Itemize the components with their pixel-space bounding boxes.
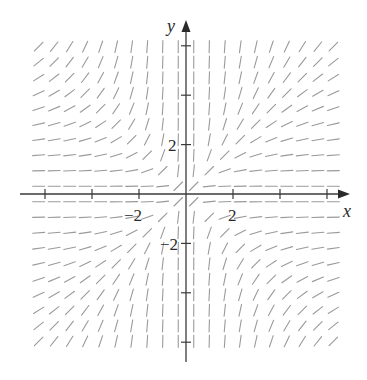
slope-segment bbox=[48, 247, 60, 249]
slope-segment bbox=[281, 154, 293, 156]
slope-segment bbox=[81, 89, 89, 97]
slope-segment bbox=[327, 123, 339, 126]
slope-segment bbox=[253, 88, 258, 99]
slope-segment bbox=[157, 201, 169, 202]
slope-segment bbox=[314, 322, 322, 330]
slope-segment bbox=[33, 123, 45, 126]
slope-segment bbox=[190, 182, 198, 190]
slope-segment bbox=[95, 246, 106, 251]
slope-segment bbox=[143, 229, 151, 237]
y-tick-label-2: 2 bbox=[168, 136, 177, 155]
slope-segment bbox=[97, 88, 104, 98]
slope-segment bbox=[115, 320, 118, 332]
slope-segment bbox=[64, 276, 75, 282]
slope-segment bbox=[131, 56, 133, 68]
slope-segment bbox=[99, 41, 103, 52]
slope-segment bbox=[95, 137, 106, 142]
slope-segment bbox=[236, 135, 244, 143]
slope-segment bbox=[158, 213, 166, 221]
slope-segment bbox=[113, 274, 120, 284]
slope-segment bbox=[146, 87, 148, 99]
slope-segment bbox=[239, 320, 241, 332]
slope-segment bbox=[129, 119, 135, 129]
slope-segment bbox=[221, 229, 229, 237]
slope-segment bbox=[178, 165, 179, 177]
direction-field-chart: x y −2 2 2 −2 bbox=[0, 0, 367, 380]
slope-segment bbox=[98, 57, 103, 68]
slope-segment bbox=[34, 58, 43, 65]
slope-segment bbox=[79, 232, 91, 234]
slope-segment bbox=[283, 306, 290, 316]
slope-segment bbox=[284, 41, 289, 52]
slope-segment bbox=[254, 320, 257, 332]
slope-segment bbox=[174, 198, 182, 206]
slope-segment bbox=[297, 276, 308, 282]
slope-segment bbox=[80, 261, 91, 266]
slope-segment bbox=[33, 232, 45, 233]
slope-segment bbox=[328, 277, 339, 281]
slope-segment bbox=[224, 320, 225, 332]
slope-segment bbox=[98, 72, 104, 83]
slope-segment bbox=[207, 227, 211, 238]
slope-segment bbox=[208, 242, 210, 254]
slope-segment bbox=[265, 154, 277, 156]
slope-segment bbox=[114, 72, 118, 83]
slope-segment bbox=[79, 247, 91, 250]
slope-segment bbox=[115, 56, 118, 68]
slope-segment bbox=[96, 121, 106, 128]
slope-segment bbox=[252, 120, 260, 128]
slope-segment bbox=[296, 138, 308, 141]
slope-segment bbox=[158, 166, 166, 174]
slope-segment bbox=[81, 291, 89, 299]
slope-segment bbox=[268, 305, 274, 316]
slope-segment bbox=[49, 106, 60, 111]
slope-segment bbox=[298, 73, 306, 81]
slope-segment bbox=[239, 87, 242, 99]
slope-segment bbox=[146, 289, 148, 301]
slope-segment bbox=[329, 42, 337, 50]
slope-segment bbox=[64, 232, 76, 233]
slope-segment bbox=[110, 170, 122, 171]
slope-segment bbox=[126, 153, 137, 158]
slope-segment bbox=[147, 41, 148, 53]
slope-segment bbox=[193, 165, 194, 177]
slope-segment bbox=[239, 335, 241, 347]
slope-segment bbox=[67, 336, 73, 346]
slope-segment bbox=[239, 41, 241, 53]
slope-segment bbox=[298, 306, 306, 314]
x-axis-label: x bbox=[342, 201, 351, 221]
slope-segment bbox=[296, 232, 308, 233]
slope-segment bbox=[129, 259, 135, 269]
slope-segment bbox=[222, 134, 227, 145]
slope-segment bbox=[82, 57, 88, 67]
slope-segment bbox=[222, 243, 227, 254]
slope-segment bbox=[131, 335, 133, 347]
slope-segment bbox=[237, 259, 243, 269]
slope-segment bbox=[126, 230, 137, 235]
slope-segment bbox=[64, 122, 75, 126]
slope-segment bbox=[224, 273, 226, 285]
slope-segment bbox=[265, 170, 277, 171]
slope-segment bbox=[269, 336, 273, 347]
slope-segment bbox=[239, 304, 242, 316]
slope-segment bbox=[147, 56, 148, 68]
slope-segment bbox=[209, 289, 210, 301]
slope-segment bbox=[50, 58, 58, 66]
slope-segment bbox=[131, 320, 133, 332]
slope-segment bbox=[96, 275, 104, 283]
slope-segment bbox=[299, 57, 306, 66]
slope-segment bbox=[131, 41, 133, 53]
slope-segment bbox=[80, 276, 90, 283]
slope-segment bbox=[251, 137, 261, 143]
slope-segment bbox=[193, 211, 194, 223]
slope-segment bbox=[313, 74, 322, 81]
slope-segment bbox=[79, 170, 91, 171]
slope-segment bbox=[34, 42, 42, 50]
slope-segment bbox=[96, 260, 106, 267]
slope-segment bbox=[66, 57, 73, 66]
slope-segment bbox=[239, 56, 241, 68]
slope-segment bbox=[98, 320, 103, 331]
slope-segment bbox=[312, 123, 324, 126]
x-axis-arrow-icon bbox=[338, 190, 350, 199]
slope-segment bbox=[254, 41, 257, 53]
